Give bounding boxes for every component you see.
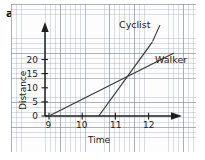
y-tick-label-0: 0 [24,112,38,121]
series-line-cyclist [99,43,152,116]
x-axis-arrowhead [171,112,182,119]
x-axis-title: Time [88,136,110,145]
series-label-walker: Walker [155,55,187,65]
y-tick-label-20: 20 [20,56,38,65]
x-tick-label-9: 9 [46,121,52,130]
x-tick-label-11: 11 [110,121,121,130]
x-tick-label-12: 12 [143,121,154,130]
y-axis-arrowhead [41,22,48,32]
series-label-cyclist: Cyclist [119,20,150,30]
y-axis-title: Distance [19,71,28,110]
cyclist-label-leader [153,25,161,42]
x-tick-label-10: 10 [76,121,87,130]
chart-screenshot: a 0 5 10 15 20 9 10 11 12 Distance [0,0,205,160]
